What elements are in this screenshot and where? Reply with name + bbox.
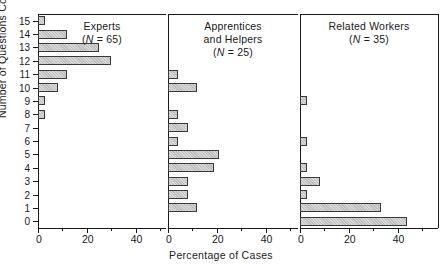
x-tick: 40 [266,228,267,233]
y-axis-label: Number of Questions Correct [0,0,8,118]
y-tick-label: 15 [19,17,30,27]
x-tick-minor [324,228,325,231]
x-axis-line [300,228,438,229]
panel-top-border [300,14,438,15]
x-axis-line [38,228,166,229]
x-tick-minor [192,228,193,231]
x-tick-label: 40 [261,234,273,245]
x-tick-label: 0 [298,234,304,245]
x-tick: 20 [217,228,218,233]
x-tick-label: 0 [166,234,172,245]
panel-top-border [38,14,166,15]
y-tick: 7 [33,128,38,129]
panel-title-line: Apprentices [168,20,298,33]
bar [300,96,307,105]
x-tick-minor [241,228,242,231]
x-tick-minor [290,228,291,231]
y-tick: 2 [33,195,38,196]
y-tick-label: 4 [24,164,30,174]
y-tick: 4 [33,168,38,169]
y-tick: 3 [33,181,38,182]
bar [168,83,197,92]
bar [300,203,381,212]
panel-title-related-workers: Related Workers(N = 35) [300,20,438,46]
bar [168,123,188,132]
panel-top-border [168,14,298,15]
x-tick-minor [111,228,112,231]
y-tick-label: 2 [24,191,30,201]
y-tick-label: 6 [24,137,30,147]
x-tick-label: 20 [82,234,94,245]
x-tick: 0 [168,228,169,233]
bar [168,137,178,146]
x-tick: 0 [300,228,301,233]
bar [300,190,307,199]
x-axis-label: Percentage of Cases [0,249,442,261]
panel-title-line: Experts [38,20,166,33]
bar [38,56,111,65]
panel-apprentices-and-helpers: 02040Apprenticesand Helpers(N = 25) [168,14,298,228]
y-tick: 5 [33,154,38,155]
y-tick-label: 3 [24,177,30,187]
x-tick-minor [62,228,63,231]
y-tick-label: 14 [19,30,30,40]
x-tick: 40 [136,228,137,233]
panel-title-experts: Experts(N = 65) [38,20,166,46]
y-tick-label: 13 [19,43,30,53]
y-tick-label: 10 [19,84,30,94]
panel-n-label: (N = 65) [38,33,166,46]
y-tick: 0 [33,221,38,222]
bar [168,190,188,199]
panel-n-label: (N = 25) [168,46,298,59]
bar [168,163,214,172]
bar [300,163,307,172]
y-tick-label: 7 [24,124,30,134]
bar [168,150,219,159]
y-tick-label: 1 [24,204,30,214]
x-tick: 0 [38,228,39,233]
bar [38,96,45,105]
panel-title-apprentices-and-helpers: Apprenticesand Helpers(N = 25) [168,20,298,59]
y-tick-label: 5 [24,150,30,160]
x-tick-minor [373,228,374,231]
panel-title-line: and Helpers [168,33,298,46]
y-tick-label: 11 [20,70,30,80]
y-tick: 1 [33,208,38,209]
y-tick-label: 8 [24,110,30,120]
chart-figure: Number of Questions Correct 012345678910… [0,0,442,266]
x-tick: 20 [349,228,350,233]
x-axis-line [168,228,298,229]
x-tick-label: 40 [131,234,143,245]
x-tick-label: 40 [393,234,405,245]
bar [168,203,197,212]
x-tick-label: 0 [36,234,42,245]
bar [38,110,45,119]
panel-title-line: Related Workers [300,20,438,33]
panel-experts: 012345678910111213141502040Experts(N = 6… [38,14,166,228]
bar [168,110,178,119]
x-tick-minor [422,228,423,231]
bar [38,70,67,79]
y-tick: 6 [33,141,38,142]
x-tick-minor [160,228,161,231]
x-tick: 40 [398,228,399,233]
bar [168,70,178,79]
panel-right-border [438,14,439,228]
bar [168,177,188,186]
x-tick-label: 20 [212,234,224,245]
y-tick-label: 9 [24,97,30,107]
y-tick-label: 0 [24,217,30,227]
panel-n-label: (N = 35) [300,33,438,46]
bar [300,137,307,146]
panel-related-workers: 02040Related Workers(N = 35) [300,14,438,228]
x-tick: 20 [87,228,88,233]
x-tick-label: 20 [344,234,356,245]
bar [300,217,407,226]
bar [300,177,320,186]
bar [38,83,58,92]
y-tick-label: 12 [19,57,30,67]
